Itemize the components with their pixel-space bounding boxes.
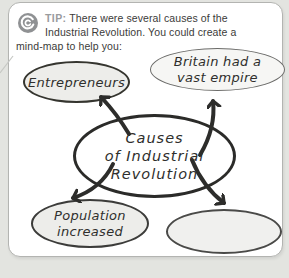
center-label-line: Causes <box>125 129 183 147</box>
node-label-line: Britain had a <box>174 54 261 70</box>
spiral-tip-icon <box>16 11 45 37</box>
page-background: TIP: There were several causes of the In… <box>0 0 289 278</box>
node-empty <box>166 209 282 254</box>
node-britain: Britain had a vast empire <box>150 48 285 91</box>
node-center-topic: Causes of Industrial Revolution <box>73 114 236 198</box>
center-label-line: Revolution <box>111 165 198 183</box>
tip-card: TIP: There were several causes of the In… <box>8 2 283 257</box>
node-entrepreneurs: Entrepreneurs <box>23 61 130 103</box>
node-label-line: vast empire <box>177 70 258 86</box>
node-label: Entrepreneurs <box>28 75 125 90</box>
node-label-line: Population <box>54 208 126 224</box>
tip-label: TIP: <box>45 12 66 24</box>
center-label-line: of Industrial <box>105 147 205 165</box>
tip-line-1: There were several causes of the <box>69 12 227 24</box>
tip-line-3: mind-map to help you: <box>16 40 122 52</box>
tip-paragraph: TIP: There were several causes of the In… <box>16 11 274 53</box>
tip-line-2: Industrial Revolution. You could create … <box>45 26 236 38</box>
node-population: Population increased <box>31 199 149 248</box>
node-label-line: increased <box>57 224 123 240</box>
